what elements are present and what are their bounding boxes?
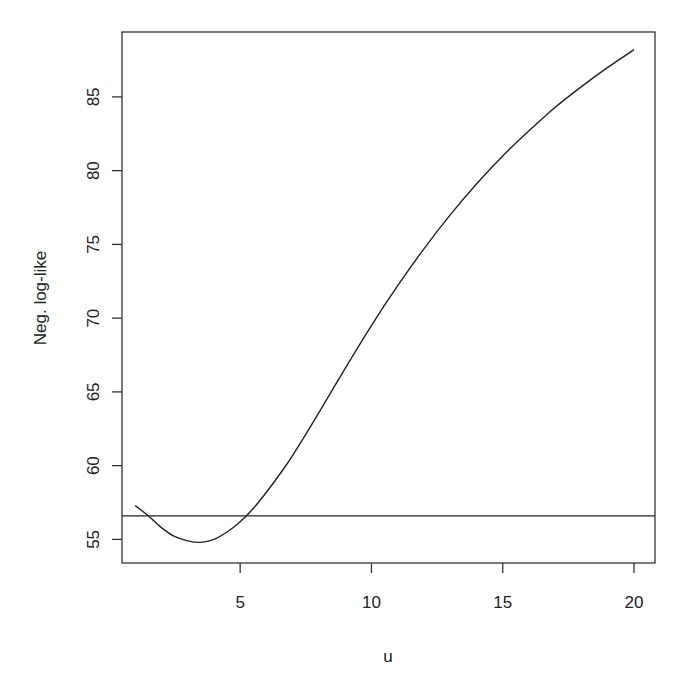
y-tick-label: 85 bbox=[84, 87, 103, 106]
data-series-line bbox=[135, 50, 634, 543]
x-tick-label: 15 bbox=[493, 593, 512, 612]
x-axis: 5101520 bbox=[235, 563, 643, 612]
y-tick-label: 75 bbox=[84, 235, 103, 254]
x-tick-label: 10 bbox=[362, 593, 381, 612]
y-tick-label: 65 bbox=[84, 382, 103, 401]
y-axis: 55606570758085 bbox=[84, 87, 122, 548]
plot-frame bbox=[122, 32, 655, 563]
y-tick-label: 70 bbox=[84, 309, 103, 328]
y-tick-label: 60 bbox=[84, 456, 103, 475]
y-tick-label: 80 bbox=[84, 161, 103, 180]
chart-canvas: 55606570758085 5101520 u Neg. log-like bbox=[0, 0, 678, 681]
x-tick-label: 20 bbox=[625, 593, 644, 612]
y-tick-label: 55 bbox=[84, 530, 103, 549]
x-axis-title: u bbox=[383, 647, 392, 666]
y-axis-title: Neg. log-like bbox=[31, 251, 50, 346]
x-tick-label: 5 bbox=[235, 593, 244, 612]
